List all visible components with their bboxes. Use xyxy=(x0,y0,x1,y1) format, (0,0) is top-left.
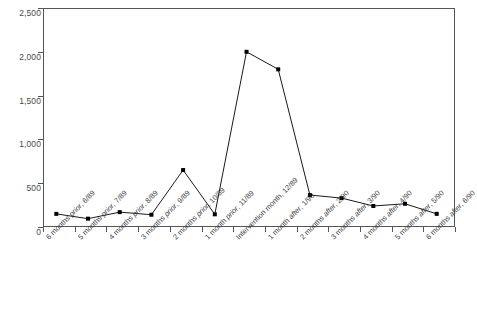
data-point-marker xyxy=(435,212,439,216)
data-point-marker xyxy=(245,50,249,54)
data-point-marker xyxy=(118,210,122,214)
data-point-marker xyxy=(276,67,280,71)
data-point-marker xyxy=(213,212,217,216)
data-point-marker xyxy=(54,212,58,216)
data-point-marker xyxy=(181,168,185,172)
data-point-marker xyxy=(149,213,153,217)
